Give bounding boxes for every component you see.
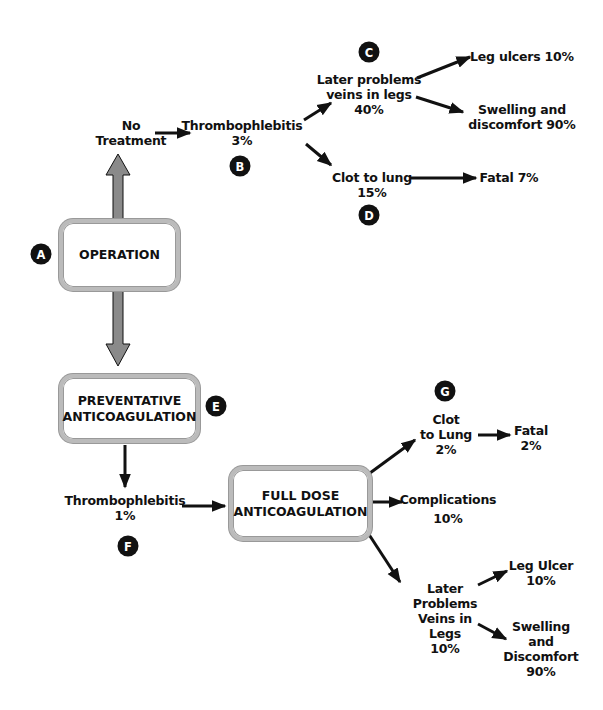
label-line: 2% [514,438,548,453]
node-leg-ulcer-10: Leg Ulcer 10% [509,558,573,588]
thick-arrow-up-icon [106,154,130,221]
badge-c: C [359,42,380,63]
node-clot-to-lung-2: Clot to Lung 2% [420,412,472,457]
node-swelling-discomfort-90: Swelling and Discomfort 90% [503,619,578,679]
label-line: No [96,118,167,133]
label-line: 1% [64,508,185,523]
label-line: Thrombophlebitis [181,118,302,133]
node-swelling-90: Swelling and discomfort 90% [468,102,575,132]
box-label: ANTICOAGULATION [234,504,368,520]
badge-d: D [359,205,380,226]
badge-f: F [118,536,139,557]
node-fatal-7: Fatal 7% [480,170,539,185]
label-line: Leg Ulcer [509,558,573,573]
box-preventative-anticoagulation: PREVENTATIVE ANTICOAGULATION [59,374,200,443]
label-line: 40% [317,102,421,117]
label-line: Later problems [317,72,421,87]
box-label: OPERATION [79,247,160,263]
label-line: Swelling [503,619,578,634]
label-line: Leg ulcers 10% [470,49,574,64]
node-complications-10: Complications 10% [400,490,497,528]
box-label: ANTICOAGULATION [63,409,197,425]
label-line: Later [413,581,478,596]
label-line: Treatment [96,133,167,148]
label-line: 10% [509,573,573,588]
label-line: 2% [420,442,472,457]
label-line: discomfort 90% [468,117,575,132]
label-line: veins in legs [317,87,421,102]
label-line: Complications [400,490,497,509]
box-operation: OPERATION [59,219,180,291]
node-no-treatment: No Treatment [96,118,167,148]
label-line: Discomfort [503,649,578,664]
label-line: Clot [420,412,472,427]
label-line: Fatal [514,423,548,438]
label-line: 3% [181,133,302,148]
label-line: Legs [413,626,478,641]
badge-b: B [230,156,251,177]
node-later-problems-40: Later problems veins in legs 40% [317,72,421,117]
label-line: Clot to lung [332,170,412,185]
label-line: Swelling and [468,102,575,117]
node-later-problems-10: Later Problems Veins in Legs 10% [413,581,478,656]
node-fatal-2: Fatal 2% [514,423,548,453]
label-line: and [503,634,578,649]
badge-e: E [206,396,227,417]
label-line: 90% [503,664,578,679]
box-full-dose-anticoagulation: FULL DOSE ANTICOAGULATION [229,466,372,541]
label-line: Fatal 7% [480,170,539,185]
thick-arrow-down-icon [106,290,130,366]
badge-g: G [435,381,456,402]
label-line: 10% [400,509,497,528]
node-thrombophlebitis-3: Thrombophlebitis 3% [181,118,302,148]
label-line: Problems [413,596,478,611]
node-leg-ulcers-10: Leg ulcers 10% [470,49,574,64]
box-label: FULL DOSE [262,488,340,504]
label-line: 10% [413,641,478,656]
node-thrombophlebitis-1: Thrombophlebitis 1% [64,493,185,523]
label-line: to Lung [420,427,472,442]
label-line: 15% [332,185,412,200]
label-line: Veins in [413,611,478,626]
badge-a: A [31,244,52,265]
node-clot-to-lung-15: Clot to lung 15% [332,170,412,200]
label-line: Thrombophlebitis [64,493,185,508]
box-label: PREVENTATIVE [78,393,182,409]
